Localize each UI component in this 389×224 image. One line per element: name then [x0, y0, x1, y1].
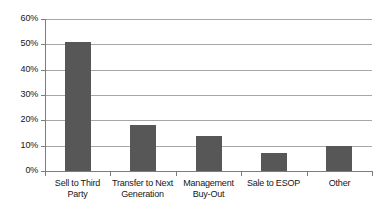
y-axis-tick-label: 60% [2, 14, 38, 23]
bar [196, 136, 222, 171]
y-axis-tick-label: 10% [2, 141, 38, 150]
x-axis-category-label-group: Sell to Third PartyTransfer to Next Gene… [45, 178, 372, 224]
bar [326, 146, 352, 171]
x-axis-category-label: Management Buy-Out [176, 178, 241, 200]
x-axis-tick [372, 172, 373, 176]
bar [65, 42, 91, 171]
y-axis-tick-label: 20% [2, 115, 38, 124]
x-axis-line [45, 171, 373, 172]
y-axis-tick-label: 30% [2, 90, 38, 99]
x-axis-tick [241, 172, 242, 176]
x-axis-tick [110, 172, 111, 176]
bar [261, 153, 287, 171]
bar [130, 125, 156, 171]
y-axis-tick-label: 0% [2, 166, 38, 175]
x-axis-tick [45, 172, 46, 176]
y-axis-tick-label: 40% [2, 65, 38, 74]
x-axis-tick [176, 172, 177, 176]
x-axis-tick [307, 172, 308, 176]
x-axis-category-label: Other [307, 178, 372, 189]
bar-group [45, 19, 372, 171]
y-axis-tick-label: 50% [2, 39, 38, 48]
x-axis-category-label: Sell to Third Party [45, 178, 110, 200]
x-axis-category-label: Transfer to Next Generation [110, 178, 175, 200]
x-axis-category-label: Sale to ESOP [241, 178, 306, 189]
bar-chart: 60%50%40%30%20%10%0% Sell to Third Party… [0, 0, 389, 224]
